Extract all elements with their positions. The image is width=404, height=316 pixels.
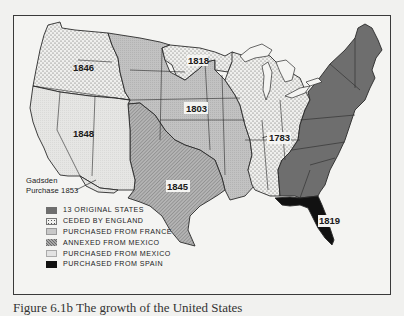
legend-label: CEDED BY ENGLAND (63, 217, 143, 225)
gadsden-purchase-label: Gadsden Purchase 1853 (26, 176, 78, 196)
legend-label: PURCHASED FROM FRANCE (63, 228, 172, 236)
swatch-very-light-gray-icon (46, 250, 57, 257)
legend-label: 13 ORIGINAL STATES (63, 206, 144, 214)
legend-item-ceded-by-england: CEDED BY ENGLAND (46, 216, 172, 227)
year-label-1848: 1848 (73, 128, 94, 139)
swatch-black-icon (46, 261, 57, 268)
legend-label: ANNEXED FROM MEXICO (63, 239, 160, 247)
year-label-1819: 1819 (319, 215, 340, 226)
legend-item-original-states: 13 ORIGINAL STATES (46, 205, 172, 216)
year-label-1783: 1783 (269, 132, 290, 143)
legend-item-purchased-from-mexico: PURCHASED FROM MEXICO (46, 248, 172, 259)
legend-item-purchased-from-france: PURCHASED FROM FRANCE (46, 227, 172, 238)
year-label-1803: 1803 (186, 103, 207, 114)
swatch-dotted-icon (46, 218, 57, 225)
year-label-1846: 1846 (73, 62, 94, 73)
legend-label: PURCHASED FROM SPAIN (63, 260, 163, 268)
figure-caption: Figure 6.1b The growth of the United Sta… (13, 300, 242, 316)
legend-label: PURCHASED FROM MEXICO (63, 250, 171, 258)
legend-item-purchased-from-spain: PURCHASED FROM SPAIN (46, 259, 172, 270)
gadsden-label-line2: Purchase 1853 (26, 186, 78, 196)
legend-item-annexed-from-mexico: ANNEXED FROM MEXICO (46, 237, 172, 248)
year-label-1845: 1845 (167, 181, 189, 192)
swatch-light-gray-icon (46, 228, 57, 235)
gadsden-label-line1: Gadsden (26, 176, 78, 186)
year-label-1818: 1818 (188, 55, 209, 66)
swatch-hatched-icon (46, 239, 57, 246)
swatch-solid-dark-gray-icon (46, 207, 57, 214)
map-legend: 13 ORIGINAL STATES CEDED BY ENGLAND PURC… (46, 205, 172, 270)
